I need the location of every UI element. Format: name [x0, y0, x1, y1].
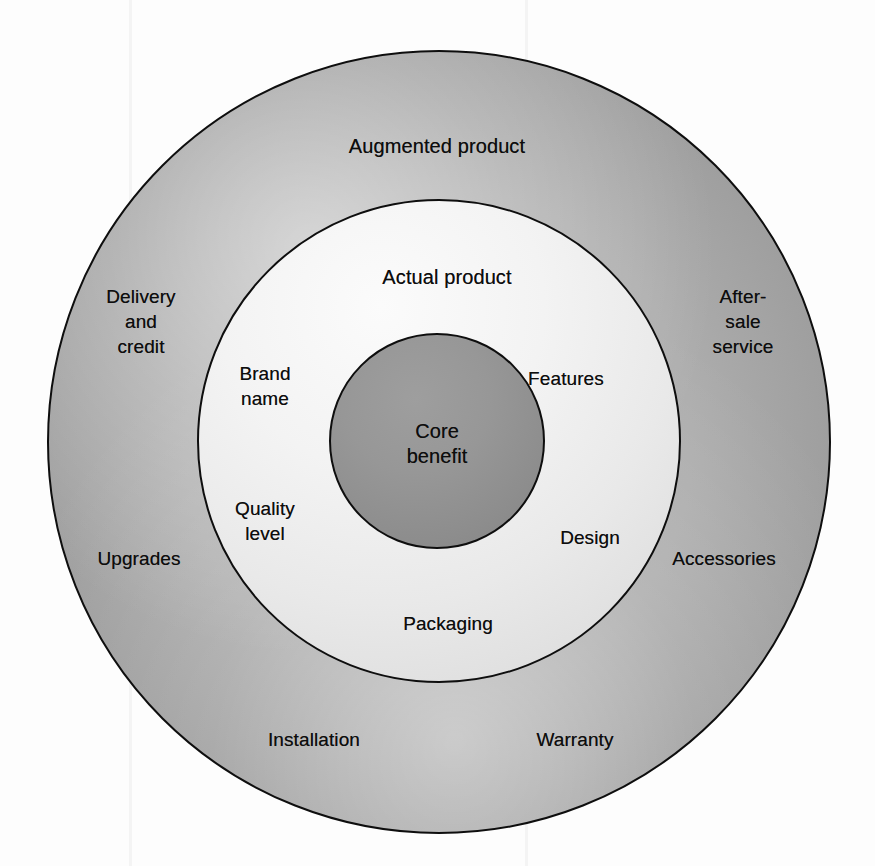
actual-product-label: Actual product	[382, 265, 511, 290]
label-upgrades: Upgrades	[97, 546, 180, 571]
label-accessories: Accessories	[672, 546, 776, 571]
label-after-sale-service: After- sale service	[713, 284, 774, 359]
label-quality-level: Quality level	[235, 496, 295, 546]
label-features: Features	[528, 366, 604, 391]
core-benefit-label: Core benefit	[407, 419, 468, 469]
label-design: Design	[560, 525, 620, 550]
label-brand-name: Brand name	[239, 361, 290, 411]
product-levels-diagram: Augmented product Actual product Core be…	[0, 0, 875, 866]
augmented-product-label: Augmented product	[349, 134, 525, 159]
label-delivery-and-credit: Delivery and credit	[106, 284, 175, 359]
label-warranty: Warranty	[536, 727, 613, 752]
label-installation: Installation	[268, 727, 360, 752]
label-packaging: Packaging	[403, 611, 493, 636]
